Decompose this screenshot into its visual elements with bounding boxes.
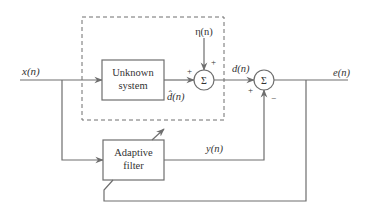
unknown-system-label-1: Unknown	[112, 67, 154, 78]
sum1-symbol: Σ	[201, 75, 207, 86]
filter-output-label: y(n)	[205, 143, 223, 155]
sum1-plus-top: +	[211, 57, 216, 67]
adaptive-filter-label-1: Adaptive	[114, 147, 153, 158]
block-diagram: x(n) Unknown system d̂(n) + Σ η(n) + d(n…	[0, 0, 366, 211]
adaptive-filter-label-2: filter	[123, 160, 144, 171]
dhat-label: d̂(n)	[167, 90, 185, 103]
sum2-plus-left: +	[248, 85, 253, 95]
sum1-plus-left: +	[187, 66, 192, 76]
noise-label: η(n)	[195, 26, 213, 38]
input-label: x(n)	[21, 65, 40, 78]
sum2-minus-bottom: −	[271, 93, 276, 103]
unknown-system-label-2: system	[118, 80, 147, 91]
error-label: e(n)	[333, 67, 350, 79]
sum2-symbol: Σ	[261, 75, 267, 86]
desired-label: d(n)	[232, 63, 250, 75]
adaptation-arrow	[152, 129, 164, 140]
